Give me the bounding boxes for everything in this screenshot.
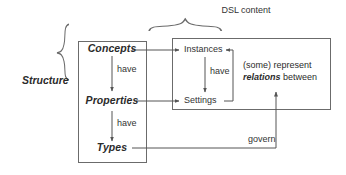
node-types[interactable]: Types	[97, 142, 127, 153]
node-settings[interactable]: Settings	[184, 96, 217, 106]
note-relations-line2: relations between	[243, 71, 317, 83]
structure-brace	[57, 24, 69, 80]
edge-label-concepts-have-properties: have	[117, 65, 137, 75]
edge-label-properties-have-types: have	[117, 119, 137, 129]
group-label-structure: Structure	[22, 75, 69, 86]
node-properties[interactable]: Properties	[86, 95, 139, 106]
edge-label-instances-have-settings: have	[210, 67, 230, 77]
node-concepts[interactable]: Concepts	[88, 43, 137, 54]
note-relations-emphasis: relations	[243, 72, 281, 82]
group-label-dsl-content: DSL content	[221, 6, 270, 16]
diagram-canvas: Structure DSL content Concepts Propertie…	[0, 0, 346, 175]
note-relations-line1: (some) represent	[243, 59, 317, 71]
node-instances[interactable]: Instances	[184, 45, 223, 55]
edge-label-types-govern: govern	[248, 135, 276, 145]
note-relations: (some) represent relations between	[243, 59, 317, 83]
dsl-content-brace	[149, 19, 221, 31]
diagram-vector-layer	[0, 0, 346, 175]
note-relations-line2-tail: between	[281, 72, 318, 82]
